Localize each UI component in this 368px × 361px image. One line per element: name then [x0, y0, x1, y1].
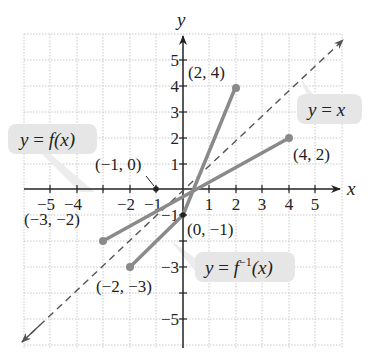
label-identity: y = x — [297, 78, 362, 124]
svg-text:−3: −3 — [161, 258, 179, 277]
point-2-4 — [232, 84, 240, 92]
point-m1-0 — [153, 186, 159, 192]
svg-text:(0, −1): (0, −1) — [187, 220, 233, 239]
svg-text:−5: −5 — [161, 310, 179, 329]
x-axis-label: x — [346, 178, 356, 199]
label-fx: y = f(x) — [8, 124, 97, 192]
svg-text:4: 4 — [285, 195, 294, 214]
svg-text:2: 2 — [171, 129, 180, 148]
svg-text:(2, 4): (2, 4) — [188, 63, 225, 82]
svg-text:(−2, −3): (−2, −3) — [96, 277, 152, 296]
inverse-function-graph: y = f(x) y = x y = f−1(x) x — [0, 0, 368, 361]
point-m2-m3 — [126, 263, 134, 271]
identity-line-tail — [22, 325, 40, 342]
svg-text:(4, 2): (4, 2) — [293, 145, 330, 164]
leader-m1-0 — [146, 176, 154, 186]
svg-text:y = f−1(x): y = f−1(x) — [203, 255, 273, 279]
svg-text:4: 4 — [171, 77, 180, 96]
svg-text:2: 2 — [232, 195, 241, 214]
y-axis-label: y — [175, 9, 186, 30]
fx-y: y — [18, 129, 29, 150]
svg-text:3: 3 — [258, 195, 267, 214]
point-4-2 — [285, 134, 293, 142]
svg-text:−2: −2 — [117, 195, 135, 214]
svg-text:3: 3 — [171, 103, 180, 122]
svg-text:(−3, −2): (−3, −2) — [24, 210, 80, 229]
svg-text:y = x: y = x — [306, 99, 346, 120]
svg-text:(−1, 0): (−1, 0) — [95, 155, 141, 174]
svg-text:y = f(x): y = f(x) — [18, 129, 75, 151]
point-m3-m2 — [99, 237, 107, 245]
svg-text:5: 5 — [171, 51, 180, 70]
y-tick-labels: 5 4 3 2 1 −1 −3 −5 — [161, 51, 180, 329]
svg-text:1: 1 — [171, 155, 180, 174]
point-0-m1 — [180, 212, 186, 218]
svg-text:5: 5 — [311, 195, 320, 214]
svg-text:1: 1 — [205, 195, 214, 214]
label-finv: y = f−1(x) — [170, 240, 295, 282]
